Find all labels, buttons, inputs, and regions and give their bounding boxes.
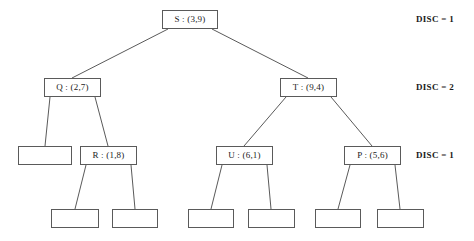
tree-node-empty[interactable] (188, 209, 234, 228)
tree-edge (72, 29, 168, 78)
tree-node-label: P : (5,6) (357, 151, 388, 160)
tree-node-label: U : (6,1) (228, 151, 261, 160)
tree-edge (244, 97, 286, 146)
tree-node-q[interactable]: Q : (2,7) (44, 78, 101, 97)
tree-node-empty[interactable] (315, 209, 361, 228)
tree-node-p[interactable]: P : (5,6) (344, 146, 401, 165)
tree-node-t[interactable]: T : (9,4) (280, 78, 337, 97)
tree-edge (212, 29, 308, 78)
disc-level-label-2: DISC = 2 (416, 82, 454, 92)
tree-node-empty[interactable] (112, 209, 158, 228)
tree-node-label: T : (9,4) (293, 83, 324, 92)
tree-edge (331, 97, 372, 146)
tree-node-empty[interactable] (377, 209, 424, 228)
tree-node-empty[interactable] (18, 146, 72, 165)
tree-diagram-canvas: S : (3,9)Q : (2,7)T : (9,4)R : (1,8)U : … (0, 0, 474, 241)
tree-edge (131, 165, 135, 209)
tree-node-r[interactable]: R : (1,8) (80, 146, 137, 165)
tree-node-u[interactable]: U : (6,1) (216, 146, 273, 165)
tree-edge (338, 165, 350, 209)
disc-level-label-1: DISC = 1 (416, 14, 454, 24)
tree-edge (75, 165, 86, 209)
disc-level-label-3: DISC = 1 (416, 150, 454, 160)
tree-node-s[interactable]: S : (3,9) (162, 10, 218, 29)
tree-edges-layer (0, 0, 474, 241)
tree-node-empty[interactable] (248, 209, 295, 228)
tree-node-label: S : (3,9) (174, 15, 205, 24)
tree-node-empty[interactable] (51, 209, 99, 228)
tree-edge (45, 97, 50, 146)
tree-edge (267, 165, 271, 209)
tree-node-label: R : (1,8) (92, 151, 124, 160)
tree-edge (95, 97, 108, 146)
tree-edge (395, 165, 400, 209)
tree-edge (211, 165, 222, 209)
tree-node-label: Q : (2,7) (56, 83, 89, 92)
